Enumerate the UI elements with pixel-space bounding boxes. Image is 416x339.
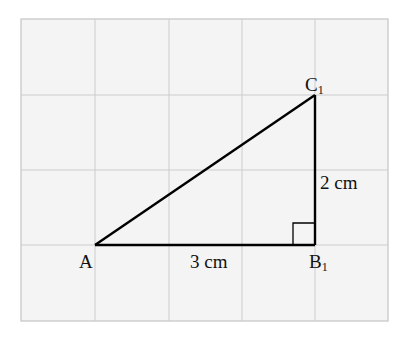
edge-bc-length-label: 2 cm (320, 172, 358, 193)
vertex-a-label: A (79, 251, 93, 272)
edge-ab-length-label: 3 cm (190, 251, 228, 272)
triangle-grid-diagram: A B1 C1 3 cm 2 cm (0, 0, 416, 339)
